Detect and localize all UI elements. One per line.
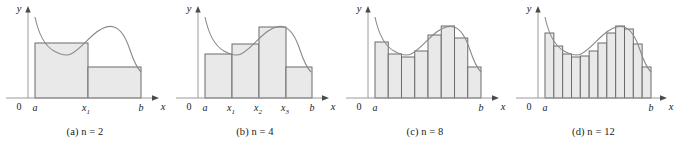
y-axis-arrow-icon [535,6,540,13]
rectangle [554,46,563,98]
rectangle [35,43,88,98]
tick-label-a: a [373,102,378,113]
tick-label-a: a [203,102,208,113]
riemann-rectangles-n12 [545,26,651,98]
rectangle [616,26,625,98]
rectangle [455,38,468,98]
rectangle [589,51,598,98]
x-axis-label: x [668,101,674,112]
panel-c-plot: y x 0 a b [340,0,510,126]
rectangle [598,43,607,98]
origin-label: 0 [187,101,192,112]
y-axis-label: y [186,3,192,14]
rectangle [388,54,401,98]
x-axis-label: x [160,101,166,112]
tick-label-x1: x1 [81,102,90,116]
rectangle [88,67,141,98]
y-axis-label: y [526,3,532,14]
rectangle [580,56,589,98]
rectangle [545,33,554,98]
panel-d: y x 0 a b (d) n = 12 [510,0,677,154]
rectangle [563,54,572,98]
y-axis-label: y [356,3,362,14]
origin-label: 0 [357,101,362,112]
panel-d-plot: y x 0 a b [510,0,677,126]
tick-label-b: b [649,102,654,113]
rectangle [402,57,415,98]
tick-label-b: b [310,102,315,113]
rectangle [428,35,441,98]
riemann-rectangles-n8 [375,26,481,98]
y-axis-arrow-icon [365,6,370,13]
x-axis-arrow-icon [660,95,667,101]
panel-a-caption: (a) n = 2 [0,126,170,137]
tick-label-b: b [479,102,484,113]
y-axis-arrow-icon [195,6,200,13]
rectangle [607,33,616,98]
y-axis-label: y [16,3,22,14]
tick-label-b: b [139,102,144,113]
panel-b-plot: y x 0 a x1 x2 x3 b [170,0,340,126]
rectangle [375,42,388,98]
rectangle [415,51,428,98]
panel-a: y x 0 a x1 b (a) n = 2 [0,0,170,154]
tick-label-a: a [33,102,38,113]
riemann-rectangles-n4 [205,27,312,98]
tick-label-x1: x1 [226,102,235,116]
panel-c-caption: (c) n = 8 [340,126,510,137]
rectangle [286,67,312,98]
riemann-rectangles-n2 [35,43,141,98]
x-axis-label: x [330,101,336,112]
riemann-sum-figure: y x 0 a x1 b (a) n = 2 y x 0 a [0,0,677,154]
x-axis-arrow-icon [492,95,499,101]
rectangle [205,54,232,98]
tick-label-a: a [543,102,548,113]
panel-b: y x 0 a x1 x2 x3 b (b) n = 4 [170,0,340,154]
rectangle [441,26,454,98]
panel-c: y x 0 a b (c) n = 8 [340,0,510,154]
rectangle [259,27,286,98]
tick-label-x2: x2 [253,102,262,116]
rectangle [468,67,481,98]
origin-label: 0 [17,101,22,112]
x-axis-arrow-icon [152,95,159,101]
rectangle [625,29,634,98]
rectangle [572,57,581,98]
rectangle [232,44,259,98]
panel-b-caption: (b) n = 4 [170,126,340,137]
x-axis-label: x [500,101,506,112]
panel-a-plot: y x 0 a x1 b [0,0,170,126]
y-axis-arrow-icon [25,6,30,13]
panel-d-caption: (d) n = 12 [510,126,677,137]
origin-label: 0 [527,101,532,112]
rectangle [642,67,651,98]
tick-label-x3: x3 [280,102,289,116]
x-axis-arrow-icon [322,95,329,101]
